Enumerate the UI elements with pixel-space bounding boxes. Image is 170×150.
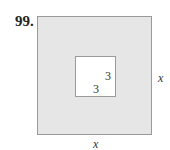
problem-number: 99. [15,14,34,29]
outer-square-bottom-label: x [93,138,98,150]
inner-square-bottom-label: 3 [93,83,99,95]
outer-square-side-label: x [158,72,163,84]
figure-canvas: 99. 3 3 x x [0,0,170,150]
inner-square-side-label: 3 [105,70,111,82]
